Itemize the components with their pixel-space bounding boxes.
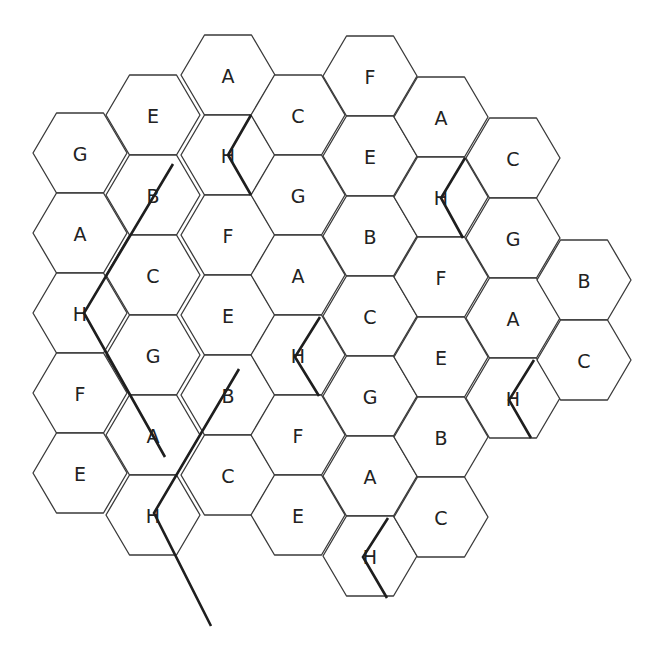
hex-label: H: [363, 546, 377, 568]
hex-label: A: [507, 308, 520, 330]
hex-label: C: [291, 105, 304, 127]
hex-label: C: [577, 350, 590, 372]
hex-label: B: [577, 270, 590, 292]
hex-grid-canvas: GAHFEEBCGAHAHFEBCCGAHFEFEBCGAHAHFEBCCGAH…: [0, 0, 659, 651]
hex-label: G: [506, 228, 521, 250]
hex-label: F: [293, 425, 304, 447]
hex-label: F: [436, 267, 447, 289]
hex-label: F: [365, 66, 376, 88]
hex-label: B: [363, 226, 376, 248]
hex-label: G: [363, 386, 378, 408]
hex-label: E: [147, 105, 159, 127]
hex-diagram: GAHFEEBCGAHAHFEBCCGAHFEFEBCGAHAHFEBCCGAH…: [0, 0, 659, 651]
hex-label: E: [292, 505, 304, 527]
hex-label: A: [435, 107, 448, 129]
hex-label: C: [221, 465, 234, 487]
hex-label: A: [364, 466, 377, 488]
hex-label: E: [222, 305, 234, 327]
hex-label: E: [74, 463, 86, 485]
hex-label: E: [364, 146, 376, 168]
hex-label: C: [363, 306, 376, 328]
hex-label: E: [435, 347, 447, 369]
hex-cell: H: [106, 475, 200, 555]
hex-label: G: [291, 185, 306, 207]
hex-label: F: [223, 225, 234, 247]
hex-label: G: [146, 345, 161, 367]
hex-label: A: [74, 223, 87, 245]
hex-label: F: [75, 383, 86, 405]
hex-cells: GAHFEEBCGAHAHFEBCCGAHFEFEBCGAHAHFEBCCGAH…: [33, 35, 631, 596]
hex-label: C: [506, 148, 519, 170]
hex-label: A: [292, 265, 305, 287]
hex-label: G: [73, 143, 88, 165]
hex-label: A: [222, 65, 235, 87]
hex-label: C: [146, 265, 159, 287]
hex-label: B: [434, 427, 447, 449]
hex-label: C: [434, 507, 447, 529]
